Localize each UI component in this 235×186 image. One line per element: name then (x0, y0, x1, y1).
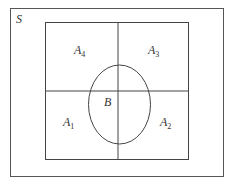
event-label-b: B (104, 96, 111, 108)
event-b-ellipse (89, 65, 151, 144)
venn-partition-diagram (0, 0, 235, 186)
sample-space-label: S (16, 13, 22, 25)
region-label-a4: A4 (74, 44, 85, 59)
region-label-a3: A3 (148, 44, 159, 59)
region-label-a1: A1 (63, 116, 74, 131)
sample-space-border (11, 9, 224, 177)
region-label-a2: A2 (160, 116, 171, 131)
